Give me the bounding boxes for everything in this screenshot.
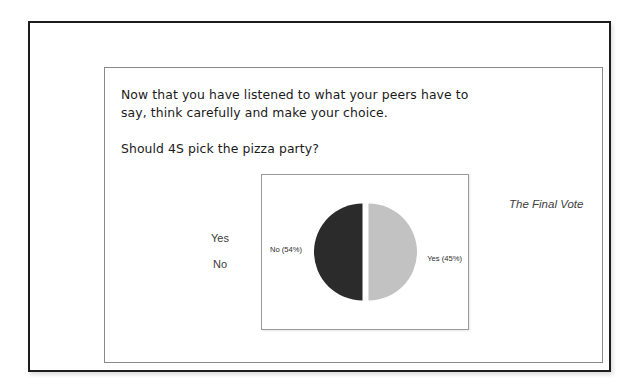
slide-screenshot: Now that you have listened to what your … [0,0,640,392]
pie-slice-no [314,204,363,301]
prompt-line-2: say, think carefully and make your choic… [121,104,521,122]
pie-slice-yes [369,204,418,301]
pie-chart-plot-area: No (54%) Yes (45%) [262,175,468,329]
pie-label-no: No (54%) [270,245,302,254]
slide-caption: The Final Vote [509,198,583,210]
prompt-block: Now that you have listened to what your … [121,86,521,158]
slide-content-panel: Now that you have listened to what your … [104,67,603,363]
pie-chart-svg [311,196,419,308]
vote-option-yes: Yes [185,225,255,251]
prompt-question: Should 4S pick the pizza party? [121,140,521,158]
vote-option-no: No [185,251,255,277]
pie-label-yes: Yes (45%) [427,254,462,263]
pie-chart-container: No (54%) Yes (45%) [261,174,469,330]
vote-option-list: Yes No [185,225,255,277]
prompt-line-1: Now that you have listened to what your … [121,86,521,104]
slide-outer-frame: Now that you have listened to what your … [28,21,611,372]
